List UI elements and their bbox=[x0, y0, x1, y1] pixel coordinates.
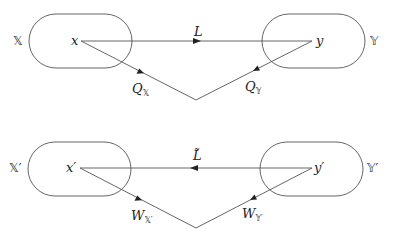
point-xprime-label: x′ bbox=[66, 161, 76, 174]
path-w bbox=[80, 168, 312, 228]
point-x-label: x bbox=[71, 34, 78, 47]
Wx-label: W𝕏′ bbox=[131, 209, 153, 225]
arrowhead-Qx-icon bbox=[137, 69, 145, 74]
Wy-label: W𝕐′ bbox=[242, 207, 263, 223]
Qy-label: Q𝕐 bbox=[245, 80, 261, 96]
set-y-label: 𝕐 bbox=[370, 35, 378, 47]
set-xprime-region bbox=[28, 142, 131, 196]
point-yprime-label: y′ bbox=[314, 161, 324, 174]
set-yprime-region bbox=[260, 142, 363, 196]
point-y-label: y bbox=[316, 34, 323, 47]
Qx-label: Q𝕏 bbox=[132, 82, 149, 98]
set-yprime-label: 𝕐′ bbox=[367, 162, 378, 174]
L-label: L bbox=[194, 25, 203, 38]
set-x-label: 𝕏 bbox=[13, 35, 23, 47]
arrowhead-Ltilde-icon bbox=[190, 165, 198, 171]
path-q bbox=[81, 41, 312, 100]
set-xprime-label: 𝕏′ bbox=[9, 162, 21, 174]
Ltilde-label: L̃ bbox=[193, 149, 202, 162]
